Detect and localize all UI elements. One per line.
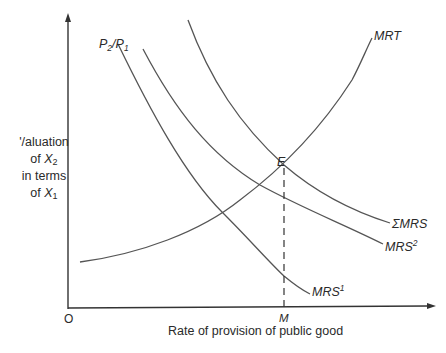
mrt-curve [80,38,372,262]
mrs1-label: MRS1 [312,283,345,299]
mrs2-label: MRS2 [385,238,418,254]
y-axis-top-label: P2/P1 [99,37,129,53]
y-axis-side-label: '/aluation of X2 in terms of X1 [10,134,78,202]
y-label-line-2: of X2 [10,151,78,168]
x-axis-arrow-icon [427,303,436,309]
x-axis [68,306,428,308]
mrs1-curve [118,44,310,294]
y-label-line-4: of X1 [10,185,78,202]
mrs2-curve [143,49,383,244]
x-axis-label: Rate of provision of public good [168,324,343,338]
equilibrium-label: E [277,155,286,169]
sum-mrs-curve [188,20,390,223]
axes [65,13,436,309]
sum-mrs-label: ΣMRS [391,217,428,231]
m-tick-label: M [279,312,289,324]
public-good-diagram: P2/P1 MRT E ΣMRS MRS2 MRS1 O M Rate of p… [0,0,446,353]
mrt-label: MRT [374,29,402,43]
y-label-line-3: in terms [10,168,78,185]
y-label-line-1: '/aluation [10,134,78,151]
y-axis-arrow-icon [65,13,71,22]
origin-label: O [64,312,73,326]
